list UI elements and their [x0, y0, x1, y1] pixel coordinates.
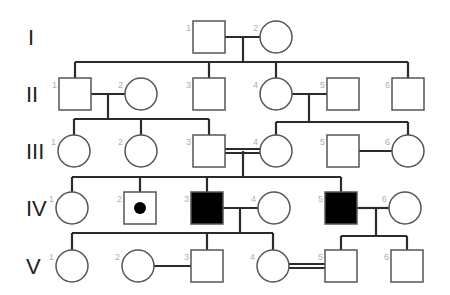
- female-circle-icon: [389, 192, 421, 224]
- female-circle-icon: [258, 192, 290, 224]
- individual-number: 1: [51, 137, 56, 147]
- male-square-icon: [59, 78, 91, 110]
- male-square-icon: [327, 135, 359, 167]
- individual-ii-4: 4: [253, 78, 292, 110]
- male-square-icon: [325, 192, 357, 224]
- male-square-icon: [327, 78, 359, 110]
- individual-number: 2: [118, 80, 123, 90]
- individual-iii-2: 2: [118, 135, 157, 167]
- individual-ii-1: 1: [52, 78, 91, 110]
- individual-number: 4: [253, 137, 258, 147]
- individual-number: 5: [320, 137, 325, 147]
- individual-number: 1: [49, 252, 54, 262]
- individual-v-4: 4: [250, 250, 289, 282]
- male-square-icon: [191, 250, 223, 282]
- individual-v-2: 2: [115, 250, 154, 282]
- individual-number: 2: [117, 194, 122, 204]
- male-square-icon: [193, 135, 225, 167]
- individual-v-5: 5: [318, 250, 357, 282]
- individual-number: 4: [251, 194, 256, 204]
- individual-iii-3: 3: [186, 135, 225, 167]
- carrier-dot-icon: [134, 202, 146, 214]
- individual-iv-1: 1: [49, 192, 88, 224]
- individual-number: 2: [253, 23, 258, 33]
- individual-number: 3: [184, 194, 189, 204]
- individual-v-1: 1: [49, 250, 88, 282]
- individual-number: 5: [318, 252, 323, 262]
- individual-number: 1: [49, 194, 54, 204]
- individual-ii-3: 3: [186, 78, 225, 110]
- individual-ii-6: 6: [385, 78, 424, 110]
- female-circle-icon: [260, 78, 292, 110]
- individual-number: 5: [318, 194, 323, 204]
- individual-iii-4: 4: [253, 135, 292, 167]
- male-square-icon: [391, 250, 423, 282]
- female-circle-icon: [125, 78, 157, 110]
- individual-number: 3: [186, 137, 191, 147]
- female-circle-icon: [56, 192, 88, 224]
- individual-iii-5: 5: [320, 135, 359, 167]
- individual-number: 6: [382, 194, 387, 204]
- individual-v-6: 6: [384, 250, 423, 282]
- female-circle-icon: [392, 135, 424, 167]
- individual-number: 4: [253, 80, 258, 90]
- female-circle-icon: [260, 21, 292, 53]
- individual-number: 4: [250, 252, 255, 262]
- individual-iv-3: 3: [184, 192, 223, 224]
- individual-number: 6: [384, 252, 389, 262]
- female-circle-icon: [125, 135, 157, 167]
- individual-number: 3: [186, 80, 191, 90]
- female-circle-icon: [257, 250, 289, 282]
- individual-number: 3: [184, 252, 189, 262]
- male-square-icon: [325, 250, 357, 282]
- female-circle-icon: [58, 135, 90, 167]
- individual-number: 1: [186, 23, 191, 33]
- individual-number: 2: [115, 252, 120, 262]
- female-circle-icon: [122, 250, 154, 282]
- individual-iii-1: 1: [51, 135, 90, 167]
- individual-number: 1: [52, 80, 57, 90]
- male-square-icon: [193, 21, 225, 53]
- individual-iv-2: 2: [117, 192, 156, 224]
- male-square-icon: [392, 78, 424, 110]
- individual-iv-5: 5: [318, 192, 357, 224]
- individual-number: 5: [320, 80, 325, 90]
- individual-number: 6: [385, 80, 390, 90]
- male-square-icon: [193, 78, 225, 110]
- male-square-icon: [191, 192, 223, 224]
- female-circle-icon: [56, 250, 88, 282]
- individual-number: 6: [385, 137, 390, 147]
- individual-number: 2: [118, 137, 123, 147]
- female-circle-icon: [260, 135, 292, 167]
- pedigree-chart: 12123456123456123456123456: [0, 0, 450, 295]
- individual-i-1: 1: [186, 21, 225, 53]
